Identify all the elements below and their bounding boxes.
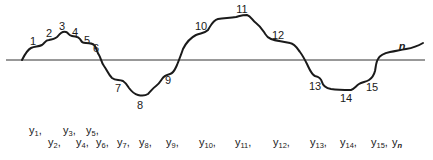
- y-label-n: yn: [392, 136, 403, 150]
- point-label-9: 9: [165, 74, 171, 86]
- y-label-7: y7,: [117, 136, 130, 150]
- point-label-1: 1: [30, 35, 36, 47]
- y-label-8: y8,: [139, 136, 152, 150]
- point-label-13: 13: [309, 80, 321, 92]
- point-label-11: 11: [236, 3, 247, 15]
- point-label-n: n: [399, 40, 406, 52]
- time-series-diagram: 123456789101112131415n y1,y2,y3,y4,y5,y6…: [0, 0, 433, 160]
- y-label-4: y4,: [76, 136, 89, 150]
- y-label-3: y3,: [63, 124, 76, 138]
- y-label-13: y13,: [310, 136, 327, 150]
- point-label-12: 12: [272, 29, 284, 41]
- point-label-14: 14: [340, 92, 352, 104]
- point-label-10: 10: [195, 20, 207, 32]
- point-label-6: 6: [93, 42, 99, 54]
- y-labels-group: y1,y2,y3,y4,y5,y6,y7,y8,y9,y10,y11,y12,y…: [29, 124, 403, 150]
- y-label-6: y6,: [96, 136, 109, 150]
- series-curve: [22, 15, 423, 96]
- y-label-14: y14,: [340, 136, 357, 150]
- point-label-4: 4: [72, 26, 78, 38]
- y-label-15: y15,: [371, 136, 388, 150]
- y-label-9: y9,: [166, 136, 179, 150]
- y-label-10: y10,: [199, 136, 216, 150]
- y-label-1: y1,: [29, 124, 42, 138]
- point-label-7: 7: [115, 82, 121, 94]
- y-label-11: y11,: [235, 136, 251, 150]
- point-label-8: 8: [137, 99, 143, 111]
- y-label-2: y2,: [48, 136, 61, 150]
- point-label-5: 5: [84, 34, 90, 46]
- y-label-12: y12,: [273, 136, 290, 150]
- point-label-3: 3: [59, 20, 65, 32]
- point-label-15: 15: [366, 81, 378, 93]
- point-label-2: 2: [46, 27, 52, 39]
